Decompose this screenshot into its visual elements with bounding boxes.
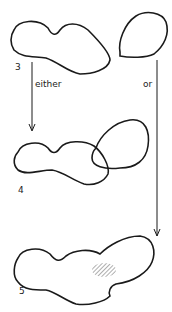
stage-label-3: 3 [15, 63, 21, 72]
hatched-region [92, 263, 116, 277]
blob-shape-stage-3 [11, 21, 110, 74]
branch-label-or: or [143, 80, 152, 89]
stage-label-5: 5 [19, 287, 25, 296]
branch-label-either: either [35, 80, 62, 89]
merged-shape-stage-5 [14, 236, 154, 305]
drop-shape-stage-3 [120, 13, 168, 58]
loop-shape-stage-4 [92, 120, 148, 169]
stage-label-4: 4 [18, 186, 24, 195]
diagram-canvas [0, 0, 172, 312]
